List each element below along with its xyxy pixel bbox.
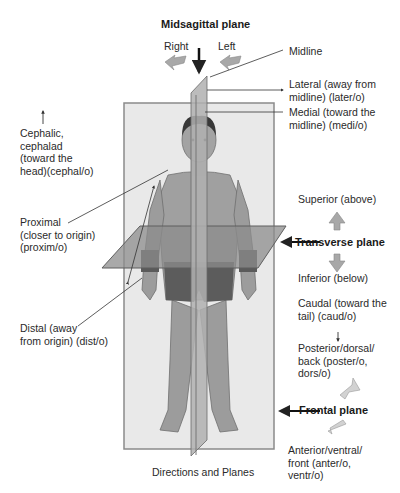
diagram-title: Midsagittal plane bbox=[161, 18, 250, 31]
superior-arrow-icon bbox=[329, 212, 345, 230]
transverse-plane-label: Transverse plane bbox=[295, 236, 385, 249]
posterior-label: Posterior/dorsal/ back (poster/o, dors/o… bbox=[298, 342, 374, 380]
anterior-arrow-icon bbox=[328, 420, 346, 434]
left-label: Left bbox=[218, 40, 236, 53]
right-arrow-icon bbox=[165, 55, 186, 70]
diagram-caption: Directions and Planes bbox=[152, 466, 254, 479]
anterior-label: Anterior/ventral/ front (anter/o, ventr/… bbox=[288, 444, 362, 482]
distal-label: Distal (away from origin) (dist/o) bbox=[20, 322, 108, 347]
left-arrow-icon bbox=[220, 55, 241, 70]
inferior-label: Inferior (below) bbox=[298, 272, 368, 285]
right-label: Right bbox=[164, 40, 189, 53]
midline-label: Midline bbox=[289, 45, 322, 58]
midline-leader bbox=[210, 50, 283, 77]
posterior-arrow-icon bbox=[340, 378, 360, 399]
superior-label: Superior (above) bbox=[298, 193, 376, 206]
caudal-label: Caudal (toward the tail) (caud/o) bbox=[298, 297, 387, 322]
frontal-plane-label: Frontal plane bbox=[299, 404, 368, 417]
lateral-label: Lateral (away from midline) (later/o) bbox=[289, 78, 376, 103]
midsagittal-plane bbox=[191, 76, 207, 456]
proximal-label: Proximal (closer to origin) (proxim/o) bbox=[20, 216, 95, 254]
medial-label: Medial (toward the midline) (medi/o) bbox=[289, 106, 375, 131]
inferior-arrow-icon bbox=[329, 254, 345, 272]
cephalic-label: Cephalic, cephalad (toward the head)(cep… bbox=[20, 127, 94, 177]
